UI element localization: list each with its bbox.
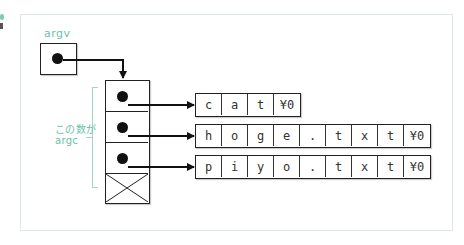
argv-arrow [63,60,123,78]
pointer-arrows [0,0,464,245]
